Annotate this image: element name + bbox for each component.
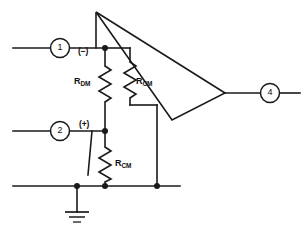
- pin-2-number: 2: [50, 126, 70, 135]
- resistor-rcm-lower-zigzag: [99, 147, 111, 182]
- junction-dot-rcm-lower-ground: [102, 183, 108, 189]
- resistor-rcm-lower-label-sub: CM: [122, 162, 132, 169]
- junction-dot-inverting-node: [102, 45, 108, 51]
- resistor-rcm-upper-label-main: R: [136, 76, 143, 86]
- junction-dot-noninverting-node: [102, 128, 108, 134]
- schematic-canvas: 1 2 4 (−) (+) RDM RCM RCM: [0, 0, 308, 239]
- wire-noninverting-stub: [88, 131, 92, 175]
- noninverting-input-label: (+): [79, 120, 89, 129]
- resistor-rcm-upper-label: RCM: [136, 77, 152, 86]
- resistor-rcm-upper-zigzag: [124, 62, 136, 98]
- resistor-rdm-label-main: R: [74, 76, 81, 86]
- pin-4-number: 4: [260, 88, 280, 97]
- junction-dot-ground-stem: [74, 183, 80, 189]
- junction-dot-rcm-upper-ground: [154, 183, 160, 189]
- circuit-schematic: [0, 0, 308, 239]
- resistor-rdm-label: RDM: [74, 77, 90, 86]
- inverting-input-label: (−): [78, 47, 88, 56]
- resistor-rdm-label-sub: DM: [81, 80, 91, 87]
- resistor-rcm-lower-label-main: R: [115, 158, 122, 168]
- resistor-rcm-upper-label-sub: CM: [143, 80, 153, 87]
- resistor-rcm-lower-label: RCM: [115, 159, 131, 168]
- resistor-rdm-zigzag: [99, 66, 111, 102]
- pin-1-number: 1: [50, 43, 70, 52]
- op-amp-triangle: [96, 12, 225, 120]
